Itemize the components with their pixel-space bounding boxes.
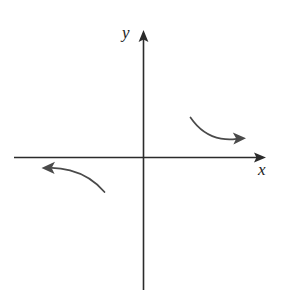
coordinate-axes-figure: y x bbox=[0, 0, 288, 304]
left-branch-curve bbox=[52, 168, 105, 192]
y-axis-label: y bbox=[122, 24, 130, 41]
right-branch-curve bbox=[191, 118, 237, 140]
figure-canvas bbox=[0, 0, 288, 304]
x-axis-label: x bbox=[258, 161, 266, 178]
